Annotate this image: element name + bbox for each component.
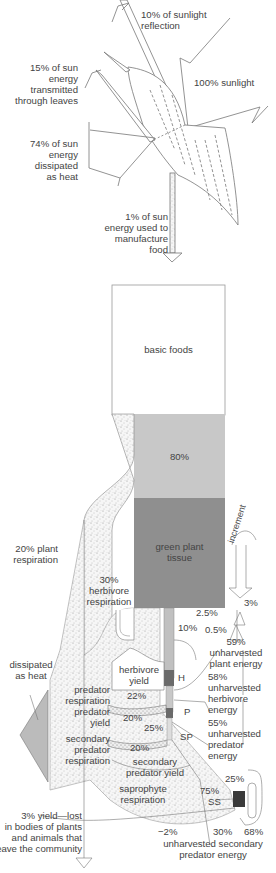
minus-2-pct: −2% xyxy=(158,826,177,837)
secondary-predator-yield-label: secondary predator yield xyxy=(115,756,195,778)
upr-line-3: predator xyxy=(208,739,261,750)
up-line-2: unharvested xyxy=(196,647,276,658)
gpt-line-2: tissue xyxy=(134,552,225,563)
us-line-2: predator energy xyxy=(150,849,276,860)
hy-line-2: yield xyxy=(114,675,164,686)
secondary-predator-bar xyxy=(167,718,172,740)
dh-line-2: as heat xyxy=(6,670,56,681)
unharvested-predator-label: 55% unharvested predator energy xyxy=(208,717,261,761)
heat-line-2: energy xyxy=(30,149,78,160)
predator-respiration-label: predator respiration xyxy=(65,684,110,706)
pct-68: 68% xyxy=(244,826,263,837)
pct-20b: 20% xyxy=(130,742,149,753)
up-line-1: 59% xyxy=(196,636,276,647)
us-line-1: unharvested secondary xyxy=(150,838,276,849)
herbivore-bar xyxy=(164,608,174,678)
secondary-predator-respiration-label: secondary predator respiration xyxy=(65,733,110,766)
H-label: H xyxy=(178,672,185,683)
pct-0-5: 0.5% xyxy=(205,624,227,635)
spr-line-1: secondary xyxy=(65,733,110,744)
pct-30: 30% xyxy=(213,826,232,837)
hr-line-3: respiration xyxy=(82,596,136,607)
spy-line-1: secondary xyxy=(115,756,195,767)
pr-line-1: 20% plant xyxy=(13,543,58,554)
spr-line-2: predator xyxy=(65,744,110,755)
reflection-line-2: reflection xyxy=(141,20,207,31)
P-label: P xyxy=(184,706,190,717)
hr-line-2: herbivore xyxy=(82,585,136,596)
uh-line-1: 58% xyxy=(208,671,261,682)
uh-line-3: herbivore xyxy=(208,693,261,704)
ly-line-2: in bodies of plants xyxy=(0,821,82,832)
spr-line-3: respiration xyxy=(65,755,110,766)
py-line-1: predator xyxy=(74,706,110,717)
pct-75: 75% xyxy=(200,785,219,796)
heat-line-4: as heat xyxy=(30,171,78,182)
sunlight-arrow xyxy=(180,18,268,128)
gpt-line-1: green plant xyxy=(134,541,225,552)
pr-line-2: respiration xyxy=(13,554,58,565)
transmitted-label: 15% of sun energy transmitted through le… xyxy=(15,62,78,106)
sunlight-label: 100% sunlight xyxy=(194,77,254,88)
transmitted-line-1: 15% of sun xyxy=(15,62,78,73)
unharvested-secondary-label: unharvested secondary predator energy xyxy=(150,838,276,860)
heat-line-1: 74% of sun xyxy=(30,138,78,149)
heat-line-3: dissipated xyxy=(30,160,78,171)
pres-line-1: predator xyxy=(65,684,110,695)
sr-line-2: respiration xyxy=(108,794,178,805)
uh-line-4: energy xyxy=(208,704,261,715)
heat-label: 74% of sun energy dissipated as heat xyxy=(30,138,78,182)
reflection-line-1: 10% of sunlight xyxy=(141,9,207,20)
up-line-3: plant energy xyxy=(196,658,276,669)
SP-label: SP xyxy=(180,731,193,742)
ss-box xyxy=(233,791,245,807)
eighty-pct-label: 80% xyxy=(134,451,225,462)
predator-P-box xyxy=(166,708,173,718)
upr-line-2: unharvested xyxy=(208,728,261,739)
food-line-1: 1% of sun xyxy=(105,211,168,222)
food-arrow xyxy=(170,173,175,253)
herbivore-respiration-label: 30% herbivore respiration xyxy=(82,574,136,607)
ly-line-4: leave the community xyxy=(0,843,82,854)
green-plant-tissue-label: green plant tissue xyxy=(134,541,225,563)
plant-respiration-label: 20% plant respiration xyxy=(13,543,58,565)
spy-line-2: predator yield xyxy=(115,767,195,778)
herbivore-H-box xyxy=(164,670,174,686)
py-line-2: yield xyxy=(74,717,110,728)
dissipated-heat-arrow xyxy=(20,690,48,782)
reflection-label: 10% of sunlight reflection xyxy=(141,9,207,31)
pct-20a: 20% xyxy=(123,712,142,723)
pct-25b: 25% xyxy=(225,773,244,784)
dissipated-heat-label: dissipated as heat xyxy=(6,659,56,681)
sr-line-1: saprophyte xyxy=(108,783,178,794)
pct-25: 25% xyxy=(144,722,163,733)
herbivore-yield-label: herbivore yield xyxy=(114,664,164,686)
transmitted-line-2: energy xyxy=(15,73,78,84)
unharvested-plant-label: 59% unharvested plant energy xyxy=(196,636,276,669)
hr-line-1: 30% xyxy=(82,574,136,585)
upr-line-4: energy xyxy=(208,750,261,761)
food-line-2: energy used to xyxy=(105,222,168,233)
saprophyte-respiration-label: saprophyte respiration xyxy=(108,783,178,805)
uh-line-2: unharvested xyxy=(208,682,261,693)
hy-line-1: herbivore xyxy=(114,664,164,675)
predator-yield-label: predator yield xyxy=(74,706,110,728)
pct-10: 10% xyxy=(178,622,197,633)
food-label: 1% of sun energy used to manufacture foo… xyxy=(105,211,168,255)
transmitted-line-4: through leaves xyxy=(15,95,78,106)
upr-line-1: 55% xyxy=(208,717,261,728)
pct-2-5: 2.5% xyxy=(196,607,218,618)
food-line-4: food xyxy=(105,244,168,255)
ly-line-1: 3% yield—lost xyxy=(0,810,82,821)
food-line-3: manufacture xyxy=(105,233,168,244)
basic-foods-label: basic foods xyxy=(112,344,225,355)
ly-line-3: and animals that xyxy=(0,832,82,843)
unharvested-herbivore-label: 58% unharvested herbivore energy xyxy=(208,671,261,715)
pct-3: 3% xyxy=(244,597,258,608)
lost-yield-label: 3% yield—lost in bodies of plants and an… xyxy=(0,810,82,854)
SS-label: SS xyxy=(208,796,221,807)
lost-yield-arrow xyxy=(76,858,92,868)
transmitted-line-3: transmitted xyxy=(15,84,78,95)
pct-22: 22% xyxy=(127,690,146,701)
dh-line-1: dissipated xyxy=(6,659,56,670)
